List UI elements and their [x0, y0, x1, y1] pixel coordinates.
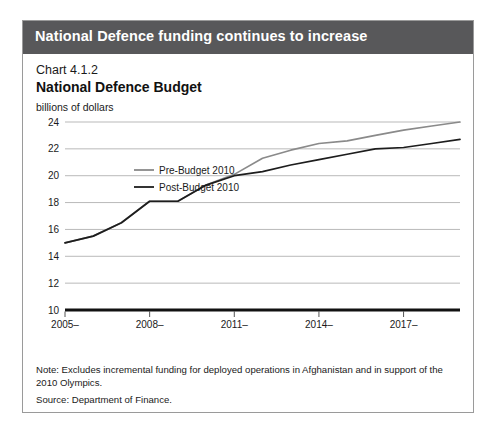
y-tick-label: 16	[48, 224, 60, 235]
series-line	[65, 122, 460, 243]
y-axis-units-label: billions of dollars	[36, 101, 114, 113]
y-axis-tick-labels: 1012141618202224	[48, 117, 60, 316]
plot-area: 1012141618202224 2005–20062008–20092011–…	[36, 117, 462, 332]
note-text: Note: Excludes incremental funding for d…	[36, 364, 454, 389]
x-tick-label: 2017–	[390, 319, 418, 330]
y-tick-label: 18	[48, 197, 60, 208]
banner: National Defence funding continues to in…	[23, 21, 473, 54]
banner-title: National Defence funding continues to in…	[35, 28, 368, 44]
y-tick-label: 12	[48, 278, 60, 289]
chart-title: National Defence Budget	[36, 79, 202, 95]
x-axis-tick-labels: 2005–20062008–20092011–20122014–20152017…	[51, 319, 418, 332]
notes-block: Note: Excludes incremental funding for d…	[36, 364, 454, 407]
legend-label: Post-Budget 2010	[159, 182, 239, 193]
x-tick-label: 2018	[392, 331, 415, 332]
data-series-lines	[65, 122, 460, 243]
y-tick-label: 24	[48, 117, 60, 128]
gridlines	[65, 122, 460, 283]
legend-label: Pre-Budget 2010	[159, 165, 235, 176]
chart-figure: National Defence funding continues to in…	[22, 20, 474, 413]
y-tick-label: 10	[48, 305, 60, 316]
x-tick-label: 2015	[308, 331, 331, 332]
x-tick-label: 2009	[139, 331, 162, 332]
chart-number: Chart 4.1.2	[36, 63, 98, 77]
x-axis-ticks	[65, 312, 404, 318]
y-tick-label: 22	[48, 143, 60, 154]
line-chart-svg: 1012141618202224 2005–20062008–20092011–…	[36, 117, 462, 332]
x-tick-label: 2006	[54, 331, 77, 332]
source-text: Source: Department of Finance.	[36, 394, 454, 407]
series-line	[65, 139, 460, 242]
x-tick-label: 2014–	[305, 319, 333, 330]
y-tick-label: 14	[48, 251, 60, 262]
x-tick-label: 2012	[223, 331, 246, 332]
x-tick-label: 2008–	[136, 319, 164, 330]
y-tick-label: 20	[48, 170, 60, 181]
x-tick-label: 2011–	[221, 319, 249, 330]
x-tick-label: 2005–	[51, 319, 79, 330]
